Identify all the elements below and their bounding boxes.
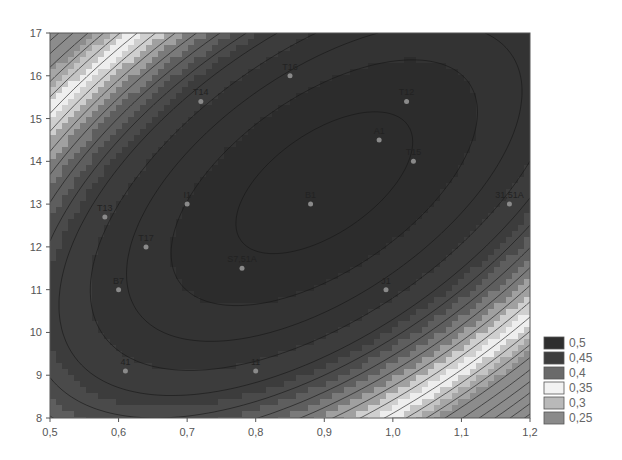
y-tick-label: 16	[30, 70, 42, 82]
x-tick-label: 1,0	[385, 426, 400, 438]
legend-item: 0,45	[544, 351, 593, 365]
y-tick-label: 8	[36, 412, 42, 424]
legend: 0,50,450,40,350,30,25	[544, 336, 593, 425]
legend-label: 0,4	[569, 366, 586, 380]
data-point-label: T12	[399, 87, 415, 97]
x-tick-label: 0,8	[248, 426, 263, 438]
data-point-label: T13	[97, 203, 113, 213]
legend-item: 0,3	[544, 396, 586, 410]
y-tick-label: 13	[30, 198, 42, 210]
y-tick-label: 10	[30, 326, 42, 338]
x-tick-label: 0,7	[179, 426, 194, 438]
legend-swatch	[544, 412, 564, 424]
legend-label: 0,3	[569, 396, 586, 410]
legend-swatch	[544, 382, 564, 394]
legend-label: 0,25	[569, 411, 593, 425]
legend-item: 0,35	[544, 381, 593, 395]
legend-swatch	[544, 337, 564, 349]
x-tick-label: 0,6	[111, 426, 126, 438]
contour-chart: 0,50,60,70,80,91,01,11,2 891011121314151…	[0, 0, 622, 460]
data-point-label: I1	[183, 190, 191, 200]
data-point-label: T14	[193, 87, 209, 97]
data-point-label: T17	[138, 233, 154, 243]
legend-swatch	[544, 352, 564, 364]
data-point-label: 31,51A	[495, 190, 524, 200]
y-tick-label: 9	[36, 369, 42, 381]
y-tick-label: 17	[30, 27, 42, 39]
legend-label: 0,45	[569, 351, 593, 365]
x-tick-label: 0,9	[317, 426, 332, 438]
y-tick-label: 14	[30, 155, 42, 167]
data-point-label: 41	[120, 357, 130, 367]
x-axis: 0,50,60,70,80,91,01,11,2	[42, 418, 537, 438]
x-tick-label: 1,1	[454, 426, 469, 438]
data-point-label: 11	[251, 357, 260, 367]
legend-label: 0,5	[569, 336, 586, 350]
legend-item: 0,4	[544, 366, 586, 380]
legend-label: 0,35	[569, 381, 593, 395]
y-tick-label: 15	[30, 113, 42, 125]
data-point-label: S7,51A	[227, 254, 257, 264]
x-tick-label: 0,5	[42, 426, 57, 438]
data-point-label: T16	[282, 62, 298, 72]
data-point-label: B1	[305, 190, 316, 200]
data-point-label: J1	[381, 276, 391, 286]
data-point-label: A1	[374, 126, 385, 136]
x-tick-label: 1,2	[522, 426, 537, 438]
legend-item: 0,25	[544, 411, 593, 425]
data-point-label: T15	[406, 147, 422, 157]
y-tick-label: 11	[31, 284, 42, 296]
data-point-label: B7	[113, 276, 124, 286]
y-tick-label: 12	[30, 241, 42, 253]
legend-swatch	[544, 367, 564, 379]
legend-swatch	[544, 397, 564, 409]
y-axis: 891011121314151617	[30, 27, 50, 424]
legend-item: 0,5	[544, 336, 586, 350]
